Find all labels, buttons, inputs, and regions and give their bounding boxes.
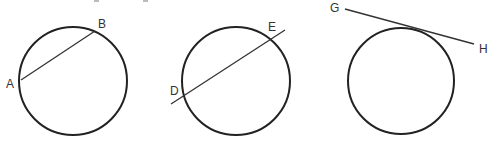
point-label-e: E [268, 20, 276, 34]
circle-figures-diagram: A B D E G H [0, 0, 490, 144]
point-label-b: B [98, 17, 106, 31]
figure-tangent: G H [330, 1, 488, 134]
chord-ab [21, 31, 95, 80]
circle-1 [19, 27, 127, 135]
tangent-gh [345, 9, 474, 44]
point-label-a: A [6, 77, 14, 91]
cropped-text-fragment [94, 0, 148, 2]
secant-de [171, 30, 285, 104]
point-label-h: H [479, 42, 488, 56]
point-label-g: G [330, 1, 339, 15]
figure-chord: A B [6, 17, 127, 135]
circle-2 [182, 27, 290, 135]
figure-secant: D E [170, 20, 290, 135]
point-label-d: D [170, 84, 179, 98]
circle-3 [348, 28, 454, 134]
